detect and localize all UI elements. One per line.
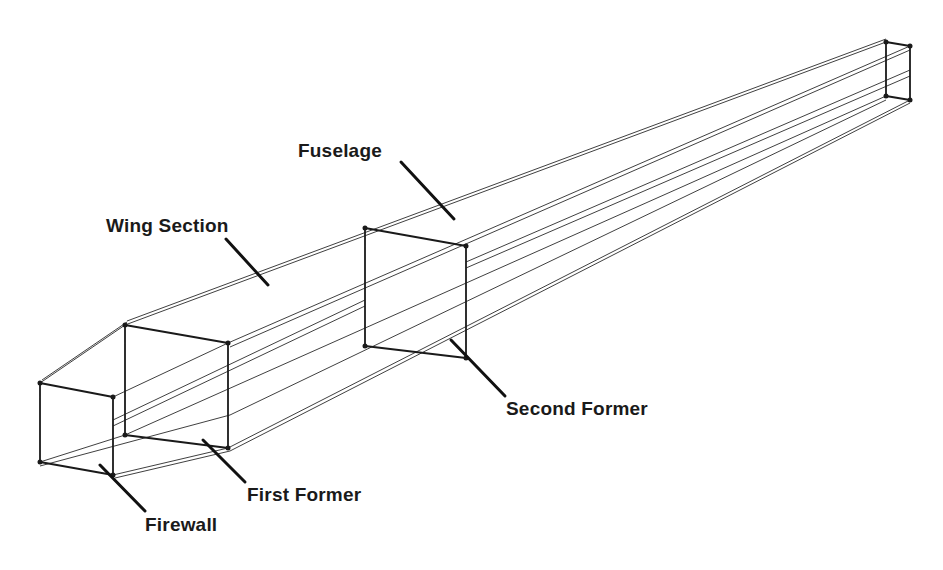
fuselage-diagram — [0, 0, 943, 570]
first-former-label: First Former — [247, 484, 361, 506]
tail-post-frame — [886, 42, 910, 100]
wing-section-leader — [226, 239, 268, 285]
firewall-leader — [100, 465, 145, 511]
wing-section-label: Wing Section — [106, 215, 229, 237]
firewall-frame — [40, 383, 113, 475]
fuselage-label: Fuselage — [298, 140, 382, 162]
firewall-label: Firewall — [145, 514, 217, 536]
fuselage-leader — [401, 162, 454, 219]
second-former-label: Second Former — [506, 398, 648, 420]
second-former-frame — [365, 228, 466, 358]
second-former-leader — [451, 340, 505, 396]
longerons — [40, 39, 910, 478]
